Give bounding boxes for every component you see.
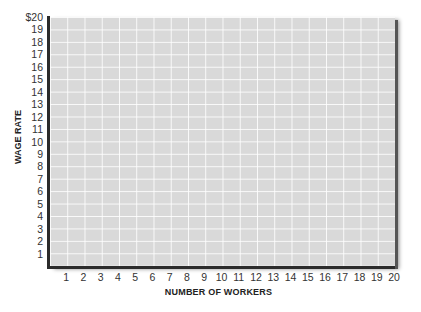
y-tick-label: 15 — [31, 74, 43, 85]
wage-rate-grid-chart: 12345678910111213141516171819$20 1234567… — [0, 0, 421, 312]
y-tick-label: 5 — [37, 199, 43, 210]
y-tick-label: 7 — [37, 174, 43, 185]
y-tick-label: 19 — [31, 24, 43, 35]
y-tick-label: 6 — [37, 186, 43, 197]
y-tick-label: 18 — [31, 37, 43, 48]
x-tick-label: 20 — [384, 271, 404, 283]
plot-right-shadow-edge — [395, 20, 398, 269]
plot-area-grid — [50, 17, 395, 266]
y-tick-label: 1 — [37, 249, 43, 260]
y-axis-line — [47, 16, 50, 269]
y-tick-label: 10 — [31, 137, 43, 148]
y-tick-label: 2 — [37, 236, 43, 247]
y-tick-label: 16 — [31, 62, 43, 73]
y-tick-label: 11 — [32, 124, 43, 135]
x-axis-line — [47, 266, 397, 269]
y-tick-label: 3 — [37, 224, 43, 235]
y-tick-label: $20 — [25, 12, 43, 23]
x-axis-label-text: NUMBER OF WORKERS — [165, 287, 272, 297]
y-tick-label: 14 — [31, 87, 43, 98]
y-tick-label: 8 — [37, 161, 43, 172]
y-tick-label: 17 — [31, 49, 43, 60]
y-tick-label: 12 — [31, 112, 43, 123]
y-axis-label: WAGE RATE — [13, 97, 23, 177]
y-tick-label: 4 — [37, 211, 43, 222]
x-axis-label: NUMBER OF WORKERS — [0, 287, 421, 297]
y-tick-label: 9 — [37, 149, 43, 160]
y-tick-label: 13 — [31, 99, 43, 110]
